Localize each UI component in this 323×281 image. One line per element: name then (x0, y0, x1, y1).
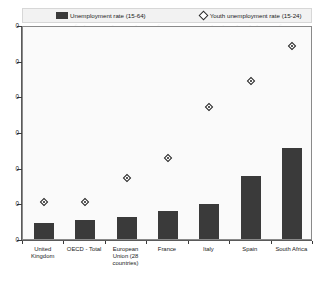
x-axis-label-italy: Italy (188, 246, 229, 253)
bar-european-union-28-countries (117, 217, 137, 239)
x-axis-label-spain: Spain (229, 246, 270, 253)
legend-item-unemployment-rate: Unemployment rate (15-64) (56, 12, 146, 19)
diamond-marker-icon (198, 11, 208, 21)
bar-south-africa (282, 148, 302, 239)
unemployment-rate-chart: Unemployment rate (15-64) Youth unemploy… (0, 0, 323, 281)
bar-united-kingdom (34, 223, 54, 239)
x-tick (271, 241, 272, 244)
y-axis-label: 0 (0, 22, 19, 29)
x-axis-label-south-africa: South Africa (271, 246, 312, 253)
x-axis-label-france: France (146, 246, 187, 253)
y-axis-label: 0 (0, 200, 19, 207)
plot-area (22, 26, 312, 240)
x-tick (146, 241, 147, 244)
x-tick (312, 241, 313, 244)
legend-item-youth-unemployment-rate: Youth unemployment rate (15-24) (200, 12, 302, 19)
bar-france (158, 211, 178, 239)
chart-legend: Unemployment rate (15-64) Youth unemploy… (22, 8, 312, 23)
youth-marker-dot (126, 177, 128, 179)
x-tick (63, 241, 64, 244)
legend-label-youth-unemployment-rate: Youth unemployment rate (15-24) (210, 12, 302, 19)
x-axis-label-european-union-28-countries: European Union (28 countries) (105, 246, 146, 268)
y-axis-label: 0 (0, 165, 19, 172)
bar-spain (241, 176, 261, 239)
y-axis-label: 0 (0, 236, 19, 243)
x-axis-label-oecd-total: OECD - Total (63, 246, 104, 253)
x-tick (229, 241, 230, 244)
y-axis-label: 0 (0, 58, 19, 65)
legend-label-unemployment-rate: Unemployment rate (15-64) (70, 12, 146, 19)
bar-swatch-icon (56, 12, 68, 19)
x-tick (105, 241, 106, 244)
y-axis-label: 0 (0, 129, 19, 136)
x-tick (22, 241, 23, 244)
plot-inner (23, 27, 311, 239)
x-axis-line (21, 240, 312, 241)
x-axis-label-united-kingdom: United Kingdom (22, 246, 63, 260)
x-tick (188, 241, 189, 244)
bar-italy (199, 204, 219, 239)
youth-marker-dot (250, 80, 252, 82)
y-axis-label: 0 (0, 93, 19, 100)
bar-oecd-total (75, 220, 95, 239)
